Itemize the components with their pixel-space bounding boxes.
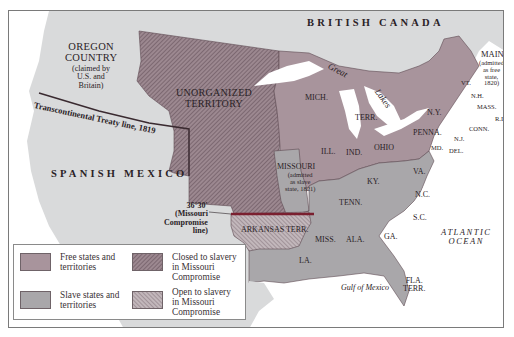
label-british-canada: BRITISH CANADA xyxy=(307,17,444,28)
swatch-free xyxy=(20,253,51,271)
legend-item-slave: Slave states and territories xyxy=(20,291,119,311)
legend-item-free: Free states and territories xyxy=(20,253,115,273)
label-compromise-line: 36°30′ (Missouri Compromise line) xyxy=(164,202,208,236)
label-del: DEL. xyxy=(449,148,463,155)
label-la: LA. xyxy=(299,257,312,265)
label-ny: N.Y. xyxy=(427,109,442,117)
label-md: MD. xyxy=(431,145,443,152)
label-unorganized-territory: UNORGANIZED TERRITORY xyxy=(176,88,252,109)
legend-item-open: Open to slavery in Missouri Compromise xyxy=(132,288,231,317)
map-legend: Free states and territories Closed to sl… xyxy=(13,244,246,320)
legend-label-free: Free states and territories xyxy=(60,253,115,273)
label-ky: KY. xyxy=(367,178,380,186)
label-va: VA. xyxy=(413,168,426,176)
legend-label-slave: Slave states and territories xyxy=(60,291,119,311)
label-spanish-mexico: SPANISH MEXICO xyxy=(51,168,188,179)
label-ohio: OHIO xyxy=(374,144,394,152)
label-ala: ALA. xyxy=(346,236,364,244)
label-oregon-note: (claimed by U.S. and Britain) xyxy=(72,65,110,90)
legend-item-closed: Closed to slavery in Missouri Compromise xyxy=(132,253,237,282)
label-vt: VT. xyxy=(461,80,471,87)
label-oregon-country: OREGON COUNTRY xyxy=(65,41,117,63)
label-conn: CONN. xyxy=(469,126,489,133)
swatch-closed xyxy=(132,253,163,271)
label-missouri-note: (admitted as slave state, 1821) xyxy=(285,172,315,192)
label-tenn: TENN. xyxy=(339,199,362,207)
label-arkansas-territory: ARKANSAS TERR. xyxy=(241,226,308,234)
label-nc: N.C. xyxy=(415,191,430,199)
label-ri: R.I. xyxy=(495,116,504,123)
legend-label-closed: Closed to slavery in Missouri Compromise xyxy=(172,253,237,282)
label-mich: MICH. xyxy=(305,94,328,102)
label-terr: TERR. xyxy=(355,114,377,122)
label-ga: GA. xyxy=(384,233,398,241)
label-maine-note: (admitted as free state, 1820) xyxy=(479,60,504,87)
label-mass: MASS. xyxy=(477,104,496,111)
label-fla: FLA. TERR. xyxy=(403,277,425,294)
label-nh: N.H. xyxy=(471,93,484,100)
label-miss: MISS. xyxy=(315,236,336,244)
swatch-slave xyxy=(20,291,51,309)
label-penna: PENNA. xyxy=(413,129,442,137)
label-sc: S.C. xyxy=(413,214,427,222)
swatch-open xyxy=(132,291,163,309)
label-ill: ILL. xyxy=(321,148,335,156)
label-maine: MAINE xyxy=(481,50,504,59)
label-gulf-of-mexico: Gulf of Mexico xyxy=(341,284,389,292)
legend-label-open: Open to slavery in Missouri Compromise xyxy=(172,288,231,317)
label-atlantic-ocean: ATLANTIC OCEAN xyxy=(441,228,491,246)
label-ind: IND. xyxy=(346,149,362,157)
label-nj: N.J. xyxy=(454,136,464,143)
